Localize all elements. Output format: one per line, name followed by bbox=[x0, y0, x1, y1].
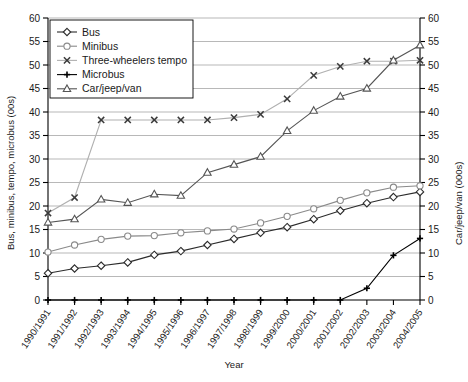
y-axis-left-tick-label: 30 bbox=[29, 154, 41, 165]
marker-circle bbox=[151, 233, 157, 239]
y-axis-left-tick-label: 50 bbox=[29, 60, 41, 71]
data-point-triangle bbox=[71, 215, 78, 222]
data-point-circle bbox=[311, 206, 317, 212]
data-point-plus bbox=[98, 297, 104, 303]
data-point-circle bbox=[337, 197, 343, 203]
y-axis-left-tick-label: 55 bbox=[29, 36, 41, 47]
data-point-diamond bbox=[390, 193, 397, 200]
data-point-plus bbox=[125, 297, 131, 303]
data-point-plus bbox=[311, 297, 317, 303]
y-axis-left-ticks: 051015202530354045505560 bbox=[29, 13, 48, 306]
y-axis-left-tick-label: 25 bbox=[29, 177, 41, 188]
marker-diamond bbox=[151, 251, 158, 258]
data-point-diamond bbox=[177, 247, 184, 254]
data-point-circle bbox=[417, 183, 423, 189]
data-point-cross bbox=[71, 194, 77, 200]
data-point-triangle bbox=[97, 196, 104, 203]
y-axis-right-tick-label: 40 bbox=[428, 107, 440, 118]
marker-circle bbox=[390, 184, 396, 190]
data-point-plus bbox=[151, 297, 157, 303]
data-point-plus bbox=[45, 297, 51, 303]
data-point-plus bbox=[178, 297, 184, 303]
marker-triangle bbox=[71, 215, 78, 222]
data-point-diamond bbox=[257, 229, 264, 236]
marker-triangle bbox=[97, 196, 104, 203]
data-point-cross bbox=[284, 96, 290, 102]
y-axis-right-ticks: 051015202530354045505560 bbox=[420, 13, 440, 306]
marker-diamond bbox=[337, 207, 344, 214]
marker-circle bbox=[417, 183, 423, 189]
y-axis-right-tick-label: 5 bbox=[428, 271, 434, 282]
data-point-circle bbox=[98, 236, 104, 242]
marker-circle bbox=[284, 213, 290, 219]
marker-diamond bbox=[44, 270, 51, 277]
data-point-cross bbox=[311, 72, 317, 78]
x-axis-category-labels: 1990/19911991/19921992/19931993/19941994… bbox=[18, 307, 424, 350]
y-axis-right-tick-label: 15 bbox=[428, 224, 440, 235]
marker-diamond bbox=[204, 241, 211, 248]
marker-diamond bbox=[97, 262, 104, 269]
data-point-circle bbox=[45, 249, 51, 255]
marker-circle bbox=[125, 233, 131, 239]
y-axis-left-tick-label: 5 bbox=[34, 271, 40, 282]
data-point-triangle bbox=[283, 127, 290, 134]
marker-circle bbox=[311, 206, 317, 212]
y-axis-left-tick-label: 10 bbox=[29, 248, 41, 259]
marker-triangle bbox=[416, 41, 423, 48]
y-axis-left-tick-label: 35 bbox=[29, 130, 41, 141]
data-point-plus bbox=[257, 297, 263, 303]
data-point-triangle bbox=[310, 107, 317, 114]
marker-diamond bbox=[390, 193, 397, 200]
y-axis-right-title: Car/jeep/van (000s) bbox=[453, 162, 464, 245]
marker-circle bbox=[45, 249, 51, 255]
marker-diamond bbox=[71, 265, 78, 272]
data-point-circle bbox=[125, 233, 131, 239]
data-point-circle bbox=[204, 228, 210, 234]
y-axis-left-tick-label: 45 bbox=[29, 83, 41, 94]
data-point-diamond bbox=[44, 270, 51, 277]
data-point-plus bbox=[231, 297, 237, 303]
marker-diamond bbox=[177, 247, 184, 254]
data-point-plus bbox=[71, 297, 77, 303]
data-point-circle bbox=[231, 226, 237, 232]
marker-triangle bbox=[310, 107, 317, 114]
legend-item-label: Bus bbox=[82, 26, 100, 38]
y-axis-right-tick-label: 10 bbox=[428, 248, 440, 259]
marker-diamond bbox=[310, 215, 317, 222]
marker-circle bbox=[231, 226, 237, 232]
data-point-circle bbox=[364, 190, 370, 196]
data-point-diamond bbox=[124, 259, 131, 266]
y-axis-right-tick-label: 20 bbox=[428, 201, 440, 212]
marker-triangle bbox=[283, 127, 290, 134]
data-point-diamond bbox=[97, 262, 104, 269]
legend-item-label: Microbus bbox=[82, 68, 125, 80]
data-point-plus bbox=[284, 297, 290, 303]
data-point-diamond bbox=[204, 241, 211, 248]
marker-circle bbox=[71, 242, 77, 248]
marker-circle bbox=[257, 220, 263, 226]
data-point-circle bbox=[71, 242, 77, 248]
marker-circle bbox=[178, 230, 184, 236]
data-point-plus bbox=[417, 235, 423, 241]
marker-circle bbox=[204, 228, 210, 234]
y-axis-left-tick-label: 40 bbox=[29, 107, 41, 118]
chart-legend: BusMinibusThree-wheelers tempoMicrobusCa… bbox=[50, 20, 193, 98]
marker-circle bbox=[64, 43, 70, 49]
data-point-diamond bbox=[310, 215, 317, 222]
data-point-circle bbox=[390, 184, 396, 190]
data-point-diamond bbox=[337, 207, 344, 214]
y-axis-right-tick-label: 50 bbox=[428, 60, 440, 71]
marker-diamond bbox=[257, 229, 264, 236]
data-point-plus bbox=[337, 297, 343, 303]
marker-diamond bbox=[230, 235, 237, 242]
y-axis-left-tick-label: 0 bbox=[34, 295, 40, 306]
data-point-triangle bbox=[416, 41, 423, 48]
y-axis-right-tick-label: 0 bbox=[428, 295, 434, 306]
data-point-circle bbox=[257, 220, 263, 226]
y-axis-left-tick-label: 20 bbox=[29, 201, 41, 212]
series-minibus bbox=[45, 183, 423, 255]
y-axis-right-tick-label: 60 bbox=[428, 13, 440, 24]
marker-diamond bbox=[124, 259, 131, 266]
y-axis-right-tick-label: 45 bbox=[428, 83, 440, 94]
data-point-circle bbox=[151, 233, 157, 239]
